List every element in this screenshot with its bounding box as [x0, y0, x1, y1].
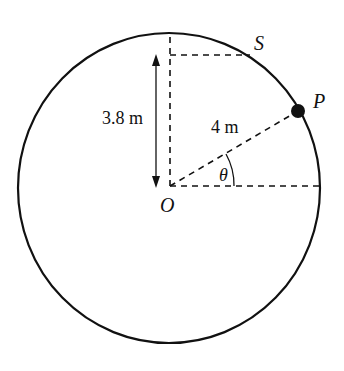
label-o: O — [160, 194, 174, 216]
arrow-up-icon — [152, 54, 160, 66]
label-radius: 4 m — [211, 117, 239, 137]
arrow-down-icon — [152, 176, 160, 188]
point-p — [291, 104, 305, 118]
circle-diagram: S P O θ 4 m 3.8 m — [0, 0, 344, 371]
label-p: P — [312, 90, 325, 112]
label-s: S — [254, 32, 264, 54]
label-theta: θ — [219, 165, 228, 185]
circle — [18, 33, 320, 343]
label-height: 3.8 m — [102, 108, 143, 128]
